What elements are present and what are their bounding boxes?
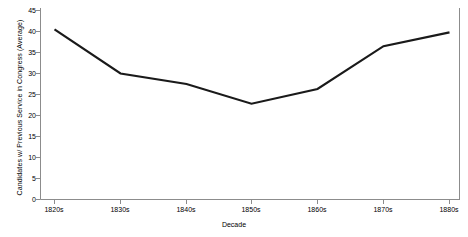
x-tick-label-1840s: 1840s xyxy=(166,206,206,213)
x-tick-label-1880s: 1880s xyxy=(429,206,468,213)
x-tick-label-1850s: 1850s xyxy=(231,206,271,213)
x-tick-label-1820s: 1820s xyxy=(34,206,74,213)
x-axis-title: Decade xyxy=(0,221,468,229)
x-axis-tick-labels: 1820s 1830s 1840s 1850s 1860s 1870s 1880… xyxy=(0,0,468,237)
x-tick-label-1860s: 1860s xyxy=(297,206,337,213)
line-chart: Candidates w/ Previous Service in Congre… xyxy=(0,0,468,237)
x-tick-label-1870s: 1870s xyxy=(363,206,403,213)
x-tick-label-1830s: 1830s xyxy=(100,206,140,213)
